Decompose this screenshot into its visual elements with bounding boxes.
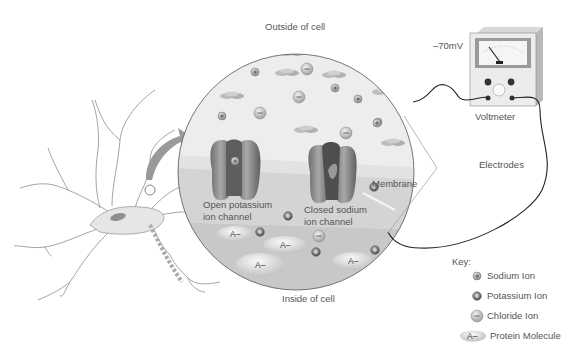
- key-label-potassium: Potassium Ion: [487, 291, 547, 301]
- electrodes-label: Electrodes: [479, 160, 524, 170]
- closed-sodium-channel: [308, 142, 356, 203]
- axon: [150, 225, 182, 282]
- diagram-canvas: A– A– A– A–: [0, 0, 574, 359]
- open-channel-label-2: ion channel: [203, 212, 252, 222]
- magnified-membrane: A– A– A– A–: [170, 40, 430, 300]
- svg-text:A–: A–: [467, 331, 478, 341]
- key-protein-icon: A–: [460, 331, 486, 342]
- inside-of-cell-label: Inside of cell: [282, 294, 335, 304]
- open-channel-label-1: Open potassium: [203, 200, 272, 210]
- svg-text:A–: A–: [255, 260, 266, 270]
- closed-channel-label-1: Closed sodium: [304, 205, 367, 215]
- key-label-protein: Protein Molecule: [490, 331, 561, 341]
- outside-of-cell-label: Outside of cell: [265, 22, 325, 32]
- open-potassium-channel: [210, 140, 260, 201]
- key-chloride-icon: [471, 310, 483, 322]
- key-legend: Key:: [452, 256, 471, 271]
- key-title: Key:: [452, 256, 471, 267]
- svg-text:A–: A–: [280, 240, 291, 250]
- magnify-marker: [145, 185, 155, 195]
- svg-text:A–: A–: [348, 256, 359, 266]
- closed-channel-label-2: ion channel: [304, 217, 353, 227]
- key-sodium-icon: [473, 272, 481, 280]
- protein-molecule: A–: [217, 226, 253, 242]
- voltage-reading: –70mV: [433, 41, 463, 51]
- membrane-label: Membrane: [372, 179, 417, 189]
- key-label-sodium: Sodium Ion: [487, 271, 535, 281]
- protein-molecule: A–: [236, 253, 284, 277]
- protein-molecule: A–: [263, 236, 307, 254]
- voltmeter: [470, 27, 543, 106]
- svg-text:A–: A–: [230, 229, 241, 239]
- voltmeter-label: Voltmeter: [475, 112, 515, 122]
- key-potassium-icon: [473, 292, 482, 301]
- protein-molecule: A–: [333, 252, 373, 270]
- key-label-chloride: Chloride Ion: [487, 311, 538, 321]
